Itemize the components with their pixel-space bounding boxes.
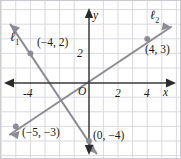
line-label-l2: ℓ2 <box>150 9 159 25</box>
line-label-l2-sub: 2 <box>155 16 159 25</box>
point-neg4-2-dot <box>28 51 34 57</box>
line-label-l1-sub: 1 <box>15 38 19 47</box>
x-tick-label-neg4: -4 <box>23 88 33 100</box>
point-label-neg5-neg3: (−5, −3) <box>22 127 60 139</box>
point-4-3-dot <box>144 36 150 42</box>
y-tick-label-2: 2 <box>77 48 83 60</box>
point-label-0-neg4: (0, −4) <box>93 130 124 142</box>
point-label-4-3: (4, 3) <box>145 44 170 56</box>
line-label-l1: ℓ1 <box>10 31 19 47</box>
origin-label: O <box>78 86 86 98</box>
x-tick-label-2: 2 <box>115 88 121 100</box>
y-axis-label: y <box>93 10 98 22</box>
x-axis-label: x <box>163 87 168 99</box>
point-label-neg4-2: (−4, 2) <box>37 37 68 49</box>
point-0-neg4-dot <box>86 138 92 144</box>
point-neg5-neg3-dot <box>13 124 19 130</box>
x-tick-label-4: 4 <box>144 88 150 100</box>
coordinate-plane-figure: ℓ1 ℓ2 (−4, 2) (4, 3) (−5, −3) (0, −4) -4… <box>0 0 181 159</box>
